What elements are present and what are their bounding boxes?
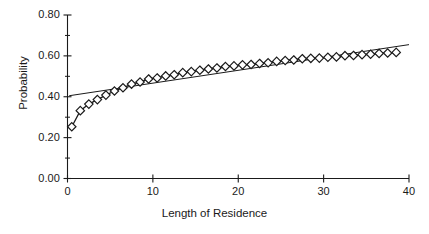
- y-tick-label: 0.40: [26, 90, 60, 102]
- data-point-marker: [153, 74, 161, 82]
- axis-lines: [68, 15, 410, 179]
- data-point-marker: [204, 65, 212, 73]
- data-point-marker: [179, 68, 187, 76]
- data-point-marker: [93, 95, 101, 103]
- data-point-marker: [307, 54, 315, 62]
- data-point-marker: [315, 54, 323, 62]
- y-tick-label: 0.60: [26, 49, 60, 61]
- data-point-marker: [341, 51, 349, 59]
- data-point-marker: [375, 49, 383, 57]
- x-tick-label: 0: [53, 185, 83, 197]
- data-point-marker: [298, 55, 306, 63]
- data-point-marker: [170, 70, 178, 78]
- data-series-markers: [68, 48, 401, 131]
- data-point-marker: [187, 67, 195, 75]
- x-tick-label: 30: [309, 185, 339, 197]
- x-tick-label: 40: [394, 185, 424, 197]
- data-point-marker: [119, 84, 127, 92]
- data-point-marker: [144, 75, 152, 83]
- x-tick-label: 20: [223, 185, 253, 197]
- x-axis-title: Length of Residence: [0, 207, 429, 219]
- y-tick-label: 0.80: [26, 8, 60, 20]
- data-point-marker: [102, 91, 110, 99]
- data-point-marker: [392, 48, 400, 56]
- data-point-marker: [221, 62, 229, 70]
- data-point-marker: [196, 66, 204, 74]
- data-point-marker: [161, 72, 169, 80]
- x-tick-label: 10: [138, 185, 168, 197]
- data-point-marker: [238, 61, 246, 69]
- data-point-marker: [332, 53, 340, 61]
- data-point-marker: [383, 49, 391, 57]
- data-point-marker: [324, 53, 332, 61]
- plot-area: [0, 0, 429, 234]
- y-tick-label: 0.00: [26, 172, 60, 184]
- data-point-marker: [68, 123, 76, 131]
- data-point-marker: [247, 60, 255, 68]
- data-point-marker: [230, 62, 238, 70]
- y-tick-label: 0.20: [26, 131, 60, 143]
- y-axis-title: Probability: [17, 28, 29, 138]
- data-point-marker: [213, 64, 221, 72]
- chart-figure: 0.000.200.400.600.80 010203040 Probabili…: [0, 0, 429, 234]
